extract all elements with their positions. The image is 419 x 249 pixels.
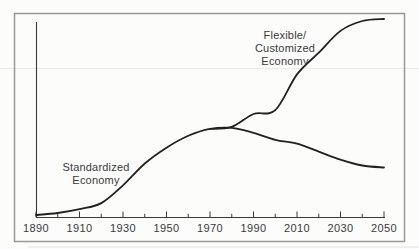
x-tick-label: 1970 <box>197 222 223 234</box>
scan-shadow <box>28 246 419 248</box>
economy-s-curves-figure: 189019101930195019701990201020302050 Sta… <box>0 0 419 249</box>
flexible-customized-economy-label: Flexible/ Customized Economy <box>225 29 345 68</box>
x-tick-label: 1890 <box>23 222 49 234</box>
label-line: Flexible/ <box>225 29 345 42</box>
label-line: Customized <box>225 42 345 55</box>
x-tick-label: 1910 <box>66 222 92 234</box>
x-tick-label: 1930 <box>110 222 136 234</box>
x-tick-label: 1990 <box>240 222 266 234</box>
label-line: Standardized <box>36 161 156 174</box>
standardized-economy-label: Standardized Economy <box>36 161 156 187</box>
label-line: Economy <box>36 174 156 187</box>
x-tick-label: 2050 <box>371 222 397 234</box>
chart-frame <box>15 14 405 242</box>
plot-area: 189019101930195019701990201020302050 <box>0 0 419 249</box>
label-line: Economy <box>225 55 345 68</box>
x-tick-label: 2030 <box>327 222 353 234</box>
x-tick-label: 1950 <box>153 222 179 234</box>
x-tick-label: 2010 <box>284 222 310 234</box>
